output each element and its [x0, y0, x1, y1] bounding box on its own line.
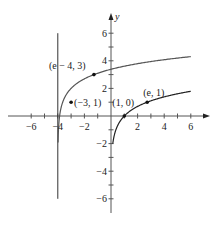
x-tick-label: −4 — [52, 121, 63, 132]
y-axis-label: y — [114, 11, 120, 22]
data-point — [123, 114, 127, 118]
chart: y (e − 4, 3)(−3, 1)(1, 0)(e, 1) −6−4−224… — [0, 0, 217, 226]
x-tick-label: 4 — [162, 121, 167, 132]
x-axis-arrow-icon — [203, 114, 210, 119]
y-tick-label: −4 — [96, 166, 107, 177]
data-point — [145, 100, 149, 104]
point-label: (e, 1) — [143, 87, 164, 99]
x-tick-label: 6 — [188, 121, 193, 132]
point-label: (1, 0) — [112, 97, 134, 109]
x-tick-label: −6 — [26, 121, 37, 132]
y-tick-label: −2 — [96, 138, 107, 149]
x-tick-label: 2 — [135, 121, 140, 132]
y-tick-label: −6 — [96, 193, 107, 204]
y-tick-label: 6 — [102, 28, 107, 39]
point-label: (−3, 1) — [74, 97, 101, 109]
y-tick-label: 4 — [102, 55, 107, 66]
x-tick-label: −2 — [79, 121, 90, 132]
data-point — [69, 100, 73, 104]
data-point — [92, 73, 96, 77]
point-label: (e − 4, 3) — [49, 60, 86, 72]
y-axis-arrow-icon — [109, 13, 114, 20]
y-tick-label: 2 — [102, 83, 107, 94]
